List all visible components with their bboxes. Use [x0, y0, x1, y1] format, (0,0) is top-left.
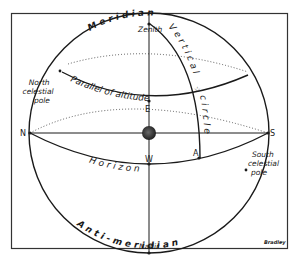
celestial-sphere-diagram: M e r i d i a n A n t i - m e r i d i a … — [0, 0, 299, 261]
vertical-circle — [150, 24, 200, 158]
south-pole-point — [245, 169, 248, 172]
parallel-of-altitude-label: Parallel of altitude — [69, 74, 150, 103]
nadir-label: Nadir — [139, 242, 160, 251]
north-celestial-pole-label: North celestial pole — [23, 78, 56, 105]
east-label: E — [145, 105, 150, 114]
nadir-point — [147, 251, 150, 254]
south-celestial-pole-label: South celestial pole — [248, 150, 281, 177]
north-pole-point — [59, 70, 62, 73]
west-label: W — [145, 155, 153, 164]
star-icon: ☆ — [194, 85, 201, 94]
circle-label: c i r c l e — [198, 94, 212, 134]
credit-label: Bradley — [264, 239, 286, 246]
parallel-back-dotted — [68, 54, 248, 72]
earth-icon — [142, 126, 156, 140]
north-point — [28, 131, 31, 134]
anti-meridian-label: A n t i - m e r i d i a n — [75, 218, 179, 251]
horizon-label: H o r i z o n — [88, 155, 140, 174]
south-label: S — [270, 129, 275, 138]
zenith-label: Zenith — [137, 25, 163, 34]
star-point-label: A — [193, 149, 199, 158]
north-label: N — [20, 129, 26, 138]
